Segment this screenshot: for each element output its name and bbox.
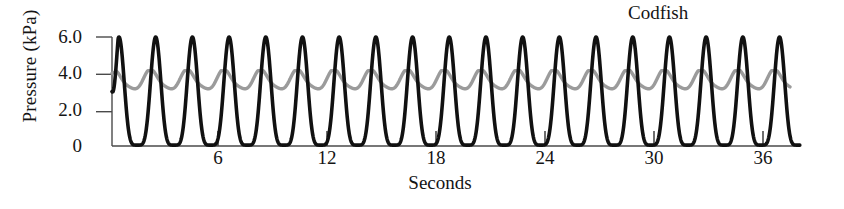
y-tick-label: 0 (22, 136, 82, 155)
y-tick-label: 4.0 (22, 63, 82, 82)
species-annotation: Codfish (628, 2, 688, 24)
y-tick-label: 2.0 (22, 100, 82, 119)
series-line-opercular-pressure (112, 71, 790, 89)
x-axis-title: Seconds (360, 172, 520, 194)
x-tick-label: 24 (520, 148, 570, 167)
y-tick-label: 6.0 (22, 27, 82, 46)
x-tick-label: 12 (302, 148, 352, 167)
x-tick-label: 30 (629, 148, 679, 167)
x-tick-label: 6 (193, 148, 243, 167)
x-tick-label: 36 (738, 148, 788, 167)
series-line-buccal-pressure (112, 37, 800, 145)
chart-figure: Pressure (kPa) Seconds Codfish 6.04.02.0… (0, 0, 844, 209)
x-tick-label: 18 (411, 148, 461, 167)
